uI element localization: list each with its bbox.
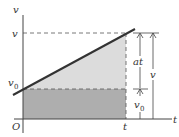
- velocity-time-diagram: v t O v v 0 t at v v 0: [0, 0, 179, 137]
- v0-tick-subscript: 0: [14, 83, 18, 91]
- rectangle-region: [23, 89, 126, 119]
- origin-label: O: [12, 121, 20, 132]
- v-axis-label: v: [13, 4, 19, 15]
- t-tick-label: t: [123, 121, 128, 132]
- v-dimension-label: v: [150, 69, 156, 80]
- v-tick-label: v: [12, 28, 18, 39]
- at-label: at: [133, 56, 144, 67]
- v0-dimension-subscript: 0: [140, 105, 144, 113]
- t-axis-label: t: [173, 114, 178, 125]
